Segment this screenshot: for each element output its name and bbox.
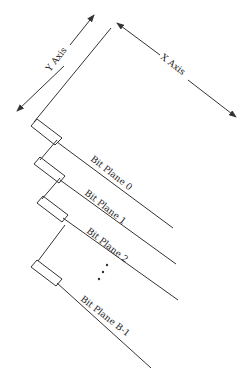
bit-plane-0-label: Bit Plane 0	[89, 154, 135, 193]
bit-plane-2-label: Bit Plane 2	[85, 226, 131, 265]
ellipsis-dots	[98, 264, 108, 280]
x-axis-label: X Axis	[159, 52, 188, 78]
bit-plane-0	[31, 119, 173, 228]
bit-plane-b-minus-1-label: Bit Plane B-1	[79, 294, 132, 339]
bit-plane-b-minus-1	[31, 260, 151, 368]
bit-plane-diagram: Y Axis X Axis Bit Plane 0 Bit Plane 1 Bi…	[0, 0, 252, 381]
y-axis-label: Y Axis	[43, 45, 69, 74]
bit-plane-1-label: Bit Plane 1	[83, 188, 129, 227]
